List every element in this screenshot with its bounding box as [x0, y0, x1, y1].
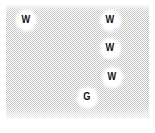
particle-w-4: W: [104, 69, 121, 86]
particle-label: W: [106, 43, 115, 53]
particle-w-3: W: [102, 40, 119, 57]
particle-label: W: [108, 72, 117, 82]
particle-label: G: [83, 92, 90, 102]
particle-matrix-diagram: WWWWG: [0, 0, 155, 133]
particle-g-5: G: [79, 89, 96, 106]
particle-label: W: [22, 15, 31, 25]
particle-w-2: W: [102, 12, 119, 29]
particle-w-1: W: [18, 12, 35, 29]
particle-label: W: [106, 15, 115, 25]
